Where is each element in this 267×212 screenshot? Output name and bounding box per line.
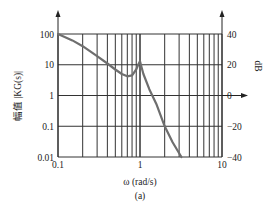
y-axis-label-right-db: dB [253, 60, 263, 71]
bode-magnitude-chart: 1001010.10.01 40200−20−40 0.1110 ω (rad/… [0, 0, 267, 212]
x-axis-label: ω (rad/s) [123, 177, 156, 188]
y-tick-label: 10 [45, 60, 55, 70]
figure-caption: (a) [135, 191, 146, 202]
x-tick-label: 0.1 [52, 160, 64, 170]
db-tick-label: 40 [227, 30, 237, 40]
axes [56, 10, 249, 157]
x-tick-label: 1 [138, 160, 143, 170]
x-tick-labels: 0.1110 [52, 160, 227, 170]
y-tick-label: 100 [40, 30, 55, 40]
db-tick-label: 20 [227, 60, 237, 70]
y-axis-label-left: 幅值 |KG(s)| [12, 71, 24, 121]
x-tick-label: 10 [217, 160, 227, 170]
grid-lines [58, 34, 222, 157]
y-tick-labels-left: 1001010.10.01 [37, 30, 54, 163]
y-tick-label: 1 [49, 91, 54, 101]
db-tick-label: −20 [227, 122, 242, 132]
y-tick-label: 0.1 [42, 122, 54, 132]
db-tick-label: 0 [227, 91, 232, 101]
db-tick-label: −40 [227, 153, 242, 163]
